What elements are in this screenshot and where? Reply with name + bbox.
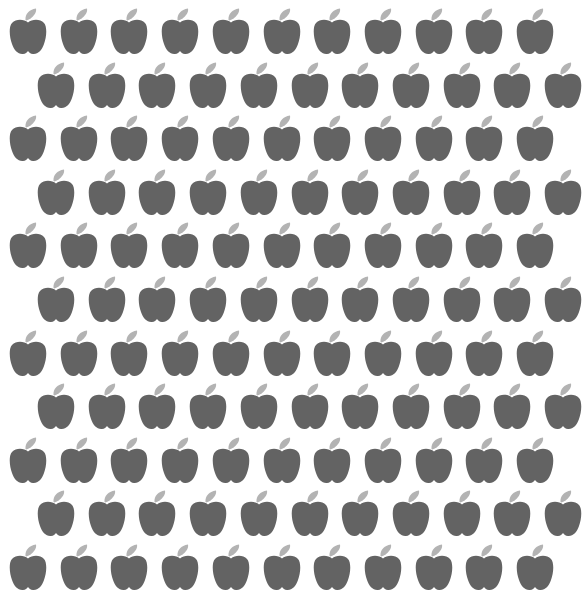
apple-body-shape	[213, 556, 250, 590]
apple-icon	[364, 114, 402, 162]
apple-body-shape	[111, 342, 148, 376]
apple-icon	[212, 543, 250, 591]
apple-icon	[493, 382, 531, 430]
apple-icon	[364, 221, 402, 269]
leaf-shape	[126, 9, 137, 21]
apple-icon	[544, 168, 582, 216]
apple-icon	[60, 436, 98, 484]
leaf-shape	[177, 438, 188, 450]
apple-body-shape	[111, 234, 148, 268]
apple-body-shape	[494, 395, 531, 429]
leaf-shape	[177, 331, 188, 343]
apple-icon	[313, 436, 351, 484]
apple-icon	[189, 168, 227, 216]
apple-body-shape	[466, 234, 503, 268]
apple-body-shape	[111, 449, 148, 483]
apple-icon	[443, 489, 481, 537]
leaf-shape	[228, 545, 239, 557]
apple-icon	[544, 489, 582, 537]
leaf-shape	[329, 438, 340, 450]
apple-body-shape	[10, 342, 47, 376]
apple-icon	[364, 7, 402, 55]
apple-icon	[341, 168, 379, 216]
apple-icon	[392, 382, 430, 430]
apple-icon	[341, 489, 379, 537]
apple-icon	[516, 7, 554, 55]
leaf-shape	[76, 9, 87, 21]
leaf-shape	[408, 277, 419, 289]
apple-icon	[291, 382, 329, 430]
apple-body-shape	[444, 288, 481, 322]
apple-icon	[161, 114, 199, 162]
leaf-shape	[357, 491, 368, 503]
apple-icon	[493, 168, 531, 216]
leaf-shape	[228, 331, 239, 343]
apple-body-shape	[314, 20, 351, 54]
apple-icon	[110, 329, 148, 377]
apple-icon	[313, 114, 351, 162]
apple-icon	[493, 61, 531, 109]
leaf-shape	[560, 63, 571, 75]
apple-icon	[415, 436, 453, 484]
apple-icon	[37, 61, 75, 109]
apple-body-shape	[517, 127, 554, 161]
apple-body-shape	[444, 181, 481, 215]
apple-body-shape	[517, 342, 554, 376]
apple-icon	[493, 275, 531, 323]
apple-body-shape	[139, 395, 176, 429]
apple-body-shape	[61, 20, 98, 54]
leaf-shape	[154, 277, 165, 289]
apple-icon	[9, 329, 47, 377]
apple-body-shape	[241, 74, 278, 108]
apple-body-shape	[466, 556, 503, 590]
apple-icon	[493, 489, 531, 537]
leaf-shape	[532, 116, 543, 128]
leaf-shape	[126, 438, 137, 450]
leaf-shape	[256, 491, 267, 503]
apple-icon	[392, 168, 430, 216]
leaf-shape	[104, 277, 115, 289]
leaf-shape	[459, 170, 470, 182]
leaf-shape	[481, 331, 492, 343]
apple-body-shape	[190, 395, 227, 429]
apple-body-shape	[416, 20, 453, 54]
apple-body-shape	[314, 127, 351, 161]
apple-body-shape	[292, 288, 329, 322]
leaf-shape	[126, 331, 137, 343]
apple-icon	[364, 436, 402, 484]
apple-body-shape	[264, 20, 301, 54]
apple-body-shape	[393, 74, 430, 108]
apple-icon	[189, 61, 227, 109]
apple-icon	[240, 275, 278, 323]
leaf-shape	[459, 63, 470, 75]
apple-body-shape	[10, 449, 47, 483]
leaf-shape	[228, 223, 239, 235]
leaf-shape	[532, 9, 543, 21]
apple-body-shape	[264, 127, 301, 161]
apple-icon	[443, 275, 481, 323]
apple-body-shape	[466, 20, 503, 54]
apple-icon	[415, 329, 453, 377]
leaf-shape	[380, 545, 391, 557]
apple-icon	[240, 168, 278, 216]
apple-body-shape	[393, 181, 430, 215]
apple-icon	[161, 7, 199, 55]
apple-body-shape	[393, 395, 430, 429]
leaf-shape	[205, 277, 216, 289]
leaf-shape	[104, 63, 115, 75]
apple-icon	[291, 275, 329, 323]
apple-body-shape	[545, 395, 582, 429]
leaf-shape	[532, 331, 543, 343]
leaf-shape	[481, 545, 492, 557]
apple-icon	[415, 7, 453, 55]
apple-icon	[110, 114, 148, 162]
leaf-shape	[380, 438, 391, 450]
apple-body-shape	[365, 234, 402, 268]
leaf-shape	[154, 63, 165, 75]
leaf-shape	[408, 63, 419, 75]
apple-body-shape	[365, 20, 402, 54]
leaf-shape	[154, 384, 165, 396]
apple-body-shape	[365, 127, 402, 161]
apple-icon	[212, 436, 250, 484]
